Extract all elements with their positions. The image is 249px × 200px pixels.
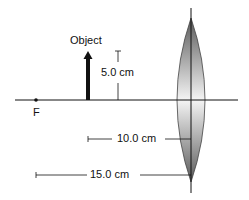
distance-10-label: 10.0 cm <box>116 133 157 144</box>
focal-label: F <box>32 107 41 118</box>
height-label: 5.0 cm <box>100 67 135 78</box>
object-label: Object <box>69 35 103 46</box>
object-arrow-head <box>84 51 93 59</box>
focal-point <box>34 98 38 102</box>
object-arrow-shaft <box>86 57 90 100</box>
distance-15-label: 15.0 cm <box>89 169 130 180</box>
